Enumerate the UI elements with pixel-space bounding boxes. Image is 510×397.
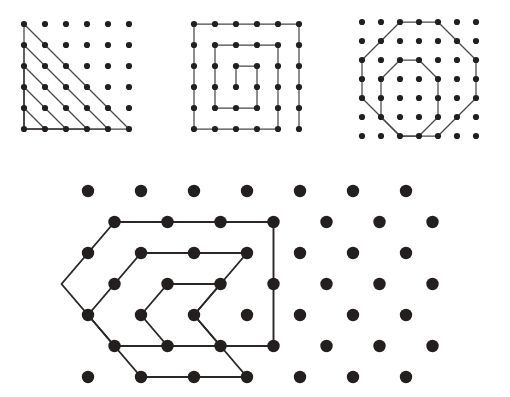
lattice-dot (254, 126, 260, 132)
lattice-dot (294, 309, 306, 321)
lattice-dot (105, 105, 111, 111)
lattice-dot (397, 76, 403, 82)
lattice-dot (275, 42, 281, 48)
lattice-dot (347, 371, 359, 383)
lattice-dot (233, 84, 239, 90)
lattice-dot (416, 38, 422, 44)
lattice-dot (212, 42, 218, 48)
lattice-dot (378, 76, 384, 82)
lattice-dot (359, 114, 365, 120)
lattice-dot (84, 84, 90, 90)
triangles-lines (24, 24, 129, 129)
lattice-dot (214, 340, 226, 352)
lattice-dot (188, 185, 200, 197)
lattice-dot (347, 185, 359, 197)
lattice-dot (135, 309, 147, 321)
lattice-dot (254, 63, 260, 69)
lattice-dot (161, 340, 173, 352)
lattice-dot (188, 309, 200, 321)
hexagon-medium (88, 253, 247, 377)
lattice-dot (21, 126, 27, 132)
lattice-dot (454, 133, 460, 139)
lattice-dot (21, 42, 27, 48)
lattice-dot (267, 340, 279, 352)
lattice-dot (416, 19, 422, 25)
lattice-dot (42, 126, 48, 132)
lattice-dot (84, 126, 90, 132)
lattice-dot (473, 114, 479, 120)
lattice-dot (214, 278, 226, 290)
lattice-dot (126, 21, 132, 27)
lattice-dot (63, 63, 69, 69)
lattice-dot (191, 84, 197, 90)
lattice-dot (188, 371, 200, 383)
lattice-dot (135, 185, 147, 197)
lattice-dot (296, 42, 302, 48)
lattice-dot (241, 247, 253, 259)
triangle-5 (24, 24, 129, 129)
inner-octagon (381, 60, 438, 136)
lattice-dot (267, 216, 279, 228)
lattice-dot (214, 216, 226, 228)
lattice-dot (400, 371, 412, 383)
panel-rectangular-spiral (170, 0, 340, 170)
lattice-dot (359, 95, 365, 101)
lattice-dot (105, 63, 111, 69)
lattice-dot (212, 126, 218, 132)
lattice-dot (294, 371, 306, 383)
lattice-dot (275, 21, 281, 27)
lattice-dot (63, 84, 69, 90)
lattice-dot (373, 216, 385, 228)
lattice-dot (397, 38, 403, 44)
lattice-dot (454, 19, 460, 25)
lattice-dot (435, 95, 441, 101)
lattice-dot (454, 76, 460, 82)
lattice-dot (378, 114, 384, 120)
lattice-dot (378, 95, 384, 101)
lattice-dot (63, 105, 69, 111)
lattice-dot (416, 57, 422, 63)
lattice-dot (84, 63, 90, 69)
lattice-dot (135, 247, 147, 259)
lattice-dot (233, 42, 239, 48)
lattice-dot (191, 126, 197, 132)
lattice-dot (105, 84, 111, 90)
lattice-dot (21, 63, 27, 69)
lattice-dot (454, 114, 460, 120)
lattice-dot (267, 278, 279, 290)
lattice-dot (21, 105, 27, 111)
lattice-dot (126, 42, 132, 48)
lattice-dot (212, 84, 218, 90)
lattice-dot (42, 42, 48, 48)
lattice-dot (42, 105, 48, 111)
hexagons-dots (82, 185, 439, 383)
lattice-dot (473, 38, 479, 44)
lattice-dot (233, 21, 239, 27)
lattice-dot (275, 84, 281, 90)
lattice-dot (275, 126, 281, 132)
lattice-dot (435, 114, 441, 120)
lattice-dot (296, 105, 302, 111)
lattice-dot (296, 63, 302, 69)
lattice-dot (416, 114, 422, 120)
panel-nested-hexagons (60, 172, 450, 397)
lattice-dot (359, 133, 365, 139)
lattice-dot (126, 84, 132, 90)
lattice-dot (347, 247, 359, 259)
lattice-dot (294, 185, 306, 197)
lattice-dot (254, 21, 260, 27)
lattice-dot (378, 38, 384, 44)
lattice-dot (84, 42, 90, 48)
lattice-dot (21, 84, 27, 90)
lattice-dot (397, 114, 403, 120)
lattice-dot (105, 126, 111, 132)
lattice-dot (275, 105, 281, 111)
lattice-dot (359, 38, 365, 44)
lattice-dot (473, 95, 479, 101)
lattice-dot (161, 216, 173, 228)
lattice-dot (397, 19, 403, 25)
lattice-dot (397, 95, 403, 101)
lattice-dot (135, 371, 147, 383)
lattice-dot (473, 19, 479, 25)
lattice-dot (42, 63, 48, 69)
